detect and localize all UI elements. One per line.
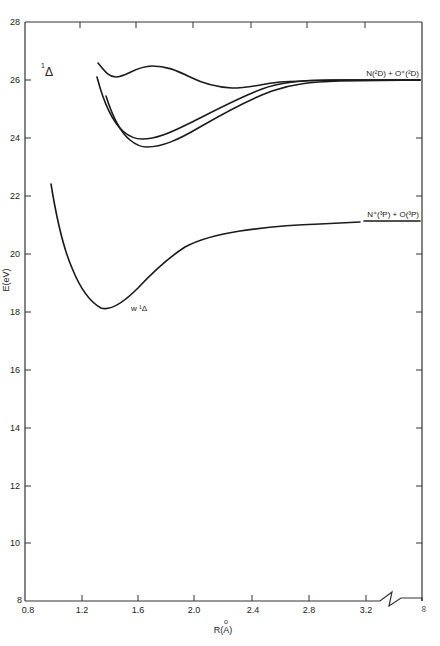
y-ticks [25, 80, 422, 543]
angstrom-ring: o [224, 618, 228, 625]
y-tick-label: 12 [10, 481, 20, 491]
x-tick-label: 1.6 [132, 605, 145, 615]
y-tick-label: 22 [10, 191, 20, 201]
y-tick-label: 10 [10, 538, 20, 548]
y-tick-label: 14 [10, 423, 20, 433]
curve-upper-well-1 [97, 77, 420, 139]
y-tick-label: 20 [10, 249, 20, 259]
annotations: 1 Δ N(²D) + O⁺(²D) N⁺(³P) + O(³P) w ¹Δ [41, 62, 419, 313]
x-tick-label: 1.2 [76, 605, 89, 615]
x-tick-labels: 0.8 1.2 1.6 2.0 2.4 2.8 3.2 ∞ [22, 605, 429, 615]
x-tick-label-infinity: ∞ [419, 606, 429, 612]
y-tick-label: 8 [17, 595, 22, 605]
curve-upper-well-2 [106, 80, 420, 147]
asymptote-label-upper: N(²D) + O⁺(²D) [366, 69, 419, 78]
delta-state-label: Δ [45, 65, 53, 79]
x-tick-label: 2.0 [188, 605, 201, 615]
y-tick-label: 24 [10, 133, 20, 143]
w-state-label: w ¹Δ [130, 304, 148, 313]
x-tick-label: 2.4 [247, 605, 260, 615]
x-axis-label: R(A) [214, 625, 233, 635]
asymptote-label-lower: N⁺(³P) + O(³P) [367, 210, 419, 219]
x-tick-label: 3.2 [360, 605, 373, 615]
x-tick-label: 0.8 [22, 605, 35, 615]
y-tick-label: 16 [10, 365, 20, 375]
y-tick-label: 26 [10, 75, 20, 85]
y-axis-label: E(eV) [1, 268, 11, 291]
potential-curves [51, 63, 420, 309]
plot-frame [25, 22, 422, 606]
curve-w1delta [51, 184, 360, 309]
y-tick-labels: 28 26 24 22 20 18 16 14 12 10 8 [10, 17, 22, 605]
y-tick-label: 28 [10, 17, 20, 27]
potential-energy-chart: 28 26 24 22 20 18 16 14 12 10 8 0.8 1.2 … [0, 0, 440, 646]
x-tick-label: 2.8 [303, 605, 316, 615]
x-ticks [80, 22, 366, 601]
y-tick-label: 18 [10, 307, 20, 317]
x-axis-with-break [25, 592, 422, 606]
